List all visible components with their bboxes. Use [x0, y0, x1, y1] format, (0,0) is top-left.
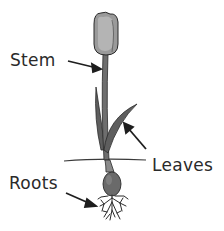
flower-head	[94, 12, 118, 55]
leaves-arrow	[124, 123, 146, 149]
stem-label: Stem	[10, 52, 56, 69]
roots-arrow	[66, 193, 96, 207]
bulb-highlight	[106, 175, 112, 185]
bulb	[103, 172, 121, 196]
leaves-label: Leaves	[152, 157, 213, 174]
roots-label: Roots	[9, 175, 58, 192]
stem-arrow	[68, 61, 101, 72]
roots	[98, 195, 128, 220]
plant-parts-diagram: Stem Leaves Roots	[0, 0, 224, 231]
stem-underground	[105, 160, 114, 172]
tulip-illustration	[0, 0, 224, 231]
